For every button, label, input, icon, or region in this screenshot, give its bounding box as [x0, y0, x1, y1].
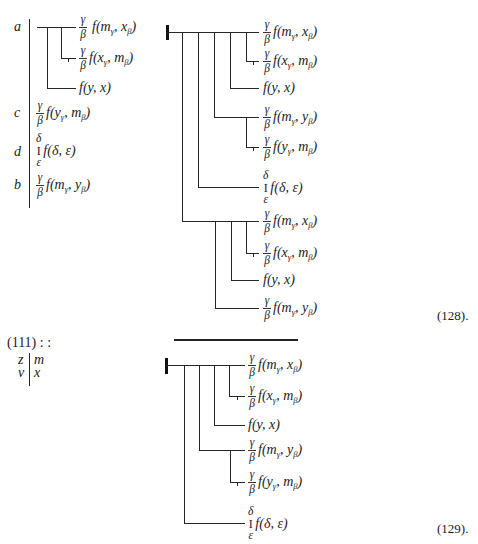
close-paren: ): [106, 80, 111, 95]
close-paren: ): [313, 53, 318, 68]
close-paren: ): [313, 213, 318, 228]
formula: δIε f(δ, ε): [263, 170, 303, 205]
arg2: m: [283, 388, 293, 403]
close-paren: ): [298, 388, 303, 403]
condition-stroke: [246, 32, 247, 61]
gamma-over-beta: γβ: [263, 295, 271, 321]
formula: γβ f(xγ, mβ): [263, 240, 317, 266]
lower-index: ε: [36, 156, 41, 168]
denominator: β: [264, 255, 270, 267]
close-paren: ): [298, 474, 303, 489]
close-paren: ): [298, 442, 303, 457]
content-stroke: [198, 187, 259, 188]
numerator: γ: [38, 172, 43, 184]
gamma-over-beta: γβ: [79, 14, 87, 40]
condition-stroke: [198, 32, 199, 187]
substitution-left: v: [18, 366, 24, 380]
formula: γβ f(mγ, yβ): [263, 104, 317, 130]
content-stroke: [184, 523, 245, 524]
content-stroke: [182, 221, 259, 222]
content-stroke: [230, 88, 259, 89]
numerator: γ: [250, 383, 255, 395]
numerator: γ: [265, 19, 270, 31]
reference-label: (111) : :: [7, 336, 51, 350]
separator: ,: [295, 300, 302, 315]
numerator: γ: [250, 469, 255, 481]
formula: f(y, x): [79, 81, 111, 95]
close-paren: ): [313, 300, 318, 315]
numerator: γ: [265, 295, 270, 307]
separator: ,: [68, 177, 75, 192]
formula: γβ f(mγ, xβ): [248, 352, 302, 378]
inference-line: [174, 339, 298, 341]
condition-stroke: [231, 221, 232, 280]
function-expression: f(mγ, yβ): [273, 110, 317, 124]
condition-stroke: [229, 365, 230, 396]
arg2: m: [298, 139, 308, 154]
condition-stroke: [47, 27, 48, 88]
close-paren: ): [283, 515, 288, 530]
formula: γβ f(mγ, xβ): [263, 19, 317, 45]
content-stroke: [199, 450, 245, 451]
begriffsschrift-page: a c d b γβ f(mγ, xβ) γβ f(xγ, mβ) f(y, x…: [0, 0, 478, 544]
separator: ,: [277, 80, 284, 95]
formula: f(y, x): [263, 273, 295, 287]
formula: γβ f(xγ, mβ): [263, 48, 317, 74]
close-paren: ): [86, 177, 91, 192]
negation-stroke: [68, 58, 69, 62]
negation-stroke: [253, 253, 254, 257]
function-expression: f(mγ, xβ): [92, 20, 136, 34]
separator: ,: [295, 109, 302, 124]
denominator: β: [264, 119, 270, 131]
arg1: m: [267, 357, 277, 372]
negation-stroke: [253, 147, 254, 151]
denominator: β: [264, 223, 270, 235]
close-paren: ): [313, 109, 318, 124]
condition-stroke: [246, 221, 247, 253]
formula: γβ f(mγ, yβ): [248, 437, 302, 463]
lower-index: ε: [263, 193, 268, 205]
close-paren: ): [313, 245, 318, 260]
upper-index: δ: [248, 506, 253, 518]
separator: ,: [262, 417, 269, 432]
denominator: β: [264, 310, 270, 322]
close-paren: ): [71, 142, 76, 157]
function-expression: f(y, x): [79, 81, 111, 95]
condition-stroke: [230, 450, 231, 482]
condition-stroke: [246, 117, 247, 147]
numerator: γ: [250, 352, 255, 364]
identity-sign: I: [249, 517, 253, 529]
formula: γβ f(mγ, yβ): [263, 295, 317, 321]
close-paren: ): [275, 417, 280, 432]
formula: δIε f(δ, ε): [36, 133, 76, 168]
arg1: m: [282, 24, 292, 39]
negation-stroke: [237, 482, 238, 486]
formula: γβ f(mγ, xβ): [263, 208, 317, 234]
arg2: m: [298, 53, 308, 68]
separator: ,: [295, 24, 302, 39]
arg2: m: [283, 474, 293, 489]
close-paren: ): [290, 272, 295, 287]
gamma-over-beta: γβ: [248, 437, 256, 463]
equation-number: (128).: [437, 309, 468, 322]
denominator: β: [80, 29, 86, 41]
denominator: β: [37, 115, 43, 127]
condition-stroke: [215, 221, 216, 308]
function-expression: f(xγ, mβ): [89, 51, 133, 65]
delta-i-epsilon: δIε: [263, 170, 268, 205]
numerator: γ: [81, 45, 86, 57]
delta-i-epsilon: δIε: [248, 506, 253, 541]
content-stroke: [166, 365, 245, 366]
separator: ,: [114, 19, 121, 34]
identity-sign: I: [264, 181, 268, 193]
formula: γβ f(mγ, xβ): [79, 14, 136, 40]
gamma-over-beta: γβ: [263, 208, 271, 234]
denominator: β: [249, 484, 255, 496]
numerator: γ: [265, 48, 270, 60]
condition-stroke: [230, 32, 231, 88]
formula: f(y, x): [263, 81, 295, 95]
denominator: β: [37, 187, 43, 199]
equation-number: (129).: [437, 522, 468, 535]
function-expression: f(yγ, mβ): [258, 475, 302, 489]
function-expression: f(δ, ε): [255, 516, 287, 530]
